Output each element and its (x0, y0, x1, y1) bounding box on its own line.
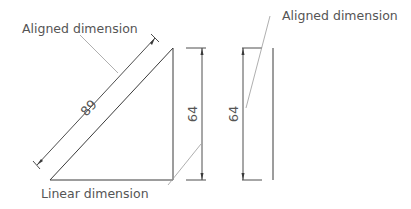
arrowhead-icon (242, 48, 245, 55)
callout-aligned-dimension-right: Aligned dimension (282, 8, 398, 23)
callout-linear-dimension: Linear dimension (41, 186, 149, 201)
line-height-value: 64 (226, 106, 241, 123)
hypotenuse-dimension-value: 89 (78, 97, 100, 119)
triangle-shape (50, 48, 173, 180)
aligned-dimension-hypotenuse: 89 (33, 34, 159, 169)
leader-line-aligned-right (246, 16, 270, 108)
dimension-diagram: 89 64 64 Aligned dimension Aligned dimen… (0, 0, 411, 209)
arrowhead-icon (201, 48, 204, 55)
arrowhead-icon (150, 38, 155, 45)
callout-aligned-dimension-left: Aligned dimension (22, 21, 138, 36)
arrowhead-icon (201, 173, 204, 180)
arrowhead-icon (242, 173, 245, 180)
triangle-height-value: 64 (185, 106, 200, 123)
leader-line-aligned-left (80, 35, 118, 73)
